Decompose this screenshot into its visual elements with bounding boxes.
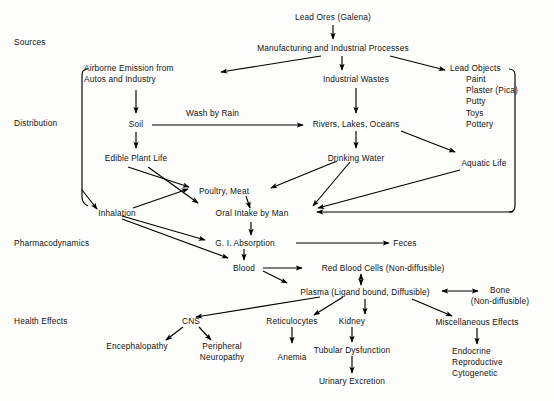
node-anemia: Anemia	[277, 352, 306, 363]
node-feces: Feces	[393, 238, 416, 249]
node-tubular-dysfunction: Tubular Dysfunction	[314, 345, 390, 356]
node-rivers-lakes-oceans: Rivers, Lakes, Oceans	[313, 119, 400, 130]
node-cns: CNS	[182, 316, 200, 327]
lead-objects-item-plaster: Plaster (Pica)	[466, 85, 518, 96]
diagram-edges-layer	[0, 0, 554, 401]
node-manufacturing: Manufacturing and Industrial Processes	[257, 43, 408, 54]
edge-manufacturing-to-lead-objects	[390, 56, 445, 70]
node-peripheral-neuropathy-line1: Peripheral	[200, 341, 244, 352]
edge-label-wash-by-rain: Wash by Rain	[186, 108, 239, 118]
edge-inhalation-to-blood	[122, 219, 228, 258]
lead-objects-item-putty: Putty	[466, 96, 518, 107]
node-red-blood-cells: Red Blood Cells (Non-diffusible)	[322, 263, 445, 274]
lead-objects-item-toys: Toys	[466, 108, 518, 119]
node-airborne-emission-line1: Airborne Emission from	[84, 63, 174, 74]
stage-label-distribution: Distribution	[14, 118, 57, 128]
node-bone-line1: Bone	[471, 285, 530, 296]
edge-cns-to-peripheral-neuropathy	[199, 327, 211, 340]
edge-edible-plant-to-oral-intake	[148, 167, 198, 203]
node-blood: Blood	[233, 263, 255, 274]
edge-drinking-water-to-poultry	[271, 161, 337, 188]
lead-objects-list: Paint Plaster (Pica) Putty Toys Pottery	[466, 74, 518, 130]
edge-plasma-to-cns	[196, 297, 320, 317]
node-plasma: Plasma (Ligand bound, Diffusible)	[300, 287, 429, 298]
edge-inhalation-to-gi-absorption	[122, 216, 205, 240]
node-inhalation: Inhalation	[98, 208, 135, 219]
stage-label-health-effects: Health Effects	[14, 316, 68, 326]
node-peripheral-neuropathy: Peripheral Neuropathy	[200, 341, 244, 363]
node-oral-intake-by-man: Oral Intake by Man	[216, 208, 289, 219]
edge-plasma-to-reticulocytes	[314, 297, 343, 315]
node-soil: Soil	[129, 119, 143, 130]
edge-plasma-to-miscellaneous-effects	[412, 299, 452, 316]
node-reticulocytes: Reticulocytes	[266, 316, 317, 327]
node-bone-line2: (Non-diffusible)	[471, 296, 530, 307]
edge-cns-to-encephalopathy	[166, 327, 183, 340]
node-poultry-meat: Poultry, Meat	[199, 186, 249, 197]
node-airborne-emission: Airborne Emission from Autos and Industr…	[84, 63, 174, 85]
stage-label-sources: Sources	[14, 37, 46, 47]
node-gi-absorption: G. I. Absorption	[215, 238, 275, 249]
node-miscellaneous-effects: Miscellaneous Effects	[435, 317, 518, 328]
node-encephalopathy: Encephalopathy	[106, 341, 168, 352]
bracket-left-arrow	[82, 190, 97, 209]
stage-label-pharmacodynamics: Pharmacodynamics	[14, 238, 89, 248]
edge-inhalation-to-poultry	[133, 189, 188, 208]
bracket-left-distribution	[82, 69, 88, 206]
node-lead-objects: Lead Objects	[450, 63, 501, 74]
node-reproductive: Reproductive	[452, 357, 503, 368]
node-lead-ores: Lead Ores (Galena)	[295, 12, 371, 23]
edge-manufacturing-to-airborne	[221, 56, 321, 72]
node-cytogenetic: Cytogenetic	[452, 368, 503, 379]
node-endocrine-group: Endocrine Reproductive Cytogenetic	[452, 346, 503, 380]
node-aquatic-life: Aquatic Life	[461, 158, 506, 169]
node-edible-plant-life: Edible Plant Life	[105, 153, 168, 164]
node-industrial-wastes: Industrial Wastes	[323, 74, 389, 85]
node-airborne-emission-line2: Autos and Industry	[84, 74, 174, 85]
lead-objects-item-paint: Paint	[466, 74, 518, 85]
edge-edible-plant-to-poultry	[128, 167, 189, 187]
edge-blood-to-plasma	[263, 271, 287, 283]
edge-rivers-to-aquatic-life	[401, 131, 455, 152]
node-peripheral-neuropathy-line2: Neuropathy	[200, 352, 244, 363]
node-urinary-excretion: Urinary Excretion	[319, 376, 385, 387]
diagram-canvas: Sources Distribution Pharmacodynamics He…	[0, 0, 554, 401]
edge-aquatic-life-to-oral-intake	[318, 170, 460, 208]
node-drinking-water: Drinking Water	[328, 153, 385, 164]
node-kidney: Kidney	[339, 316, 365, 327]
edge-poultry-to-oral-intake	[246, 196, 250, 208]
node-endocrine: Endocrine	[452, 346, 503, 357]
lead-objects-item-pottery: Pottery	[466, 119, 518, 130]
node-bone: Bone (Non-diffusible)	[471, 285, 530, 307]
